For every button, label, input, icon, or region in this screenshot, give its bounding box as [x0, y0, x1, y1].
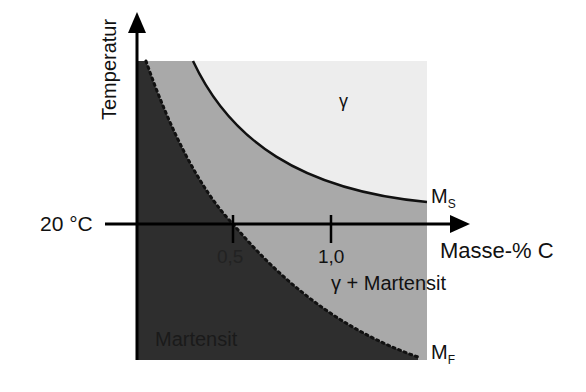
ms-label: MS: [431, 186, 456, 206]
mf-label-main: M: [431, 341, 448, 363]
gamma-martensite-region-label: γ + Martensit: [331, 273, 446, 293]
gamma-region-label: γ: [339, 92, 348, 110]
y-axis-label: Temperatur: [98, 19, 121, 120]
martensite-region-label: Martensit: [155, 329, 237, 349]
mf-label-sub: F: [448, 353, 455, 367]
ms-label-sub: S: [448, 197, 456, 211]
ms-label-main: M: [431, 185, 448, 207]
x-tick-label-0-5: 0,5: [217, 247, 243, 266]
reference-temp-label: 20 °C: [40, 213, 93, 234]
mf-label: MF: [431, 342, 455, 362]
x-axis-arrow-icon: [450, 215, 470, 233]
y-axis-arrow-icon: [128, 12, 146, 33]
x-axis-label: Masse-% C: [440, 240, 554, 262]
x-tick-label-1-0: 1,0: [318, 247, 344, 266]
phase-diagram: [0, 0, 586, 392]
